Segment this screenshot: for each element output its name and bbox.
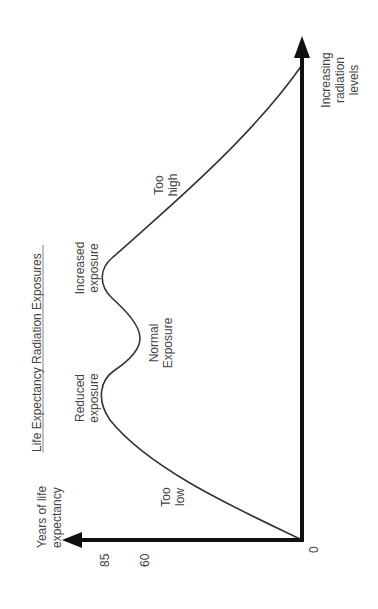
annotation-increased-exposure: Increased exposure [73,242,101,295]
x-axis-label: Increasing radiation levels [319,52,361,107]
svg-text:levels: levels [347,65,361,96]
svg-text:Reduced: Reduced [73,374,87,422]
svg-text:Years of life: Years of life [35,485,49,548]
chart-title: Life Expectancy Radiation Exposures [30,253,44,452]
svg-text:exposure: exposure [87,243,101,293]
origin-label: 0 [307,546,321,553]
svg-text:Increased: Increased [73,242,87,295]
svg-text:exposure: exposure [87,373,101,423]
svg-text:expectancy: expectancy [50,487,64,548]
y-axis-arrow-icon [62,532,82,548]
svg-text:Too: Too [152,175,166,195]
svg-text:Exposure: Exposure [161,317,175,368]
svg-text:Normal: Normal [147,324,161,363]
svg-text:radiation: radiation [333,57,347,103]
y-tick-85: 85 [98,553,112,567]
annotation-too-high: Too high [152,174,180,197]
chart-canvas: Life Expectancy Radiation Exposures Year… [0,0,378,609]
svg-text:low: low [173,488,187,506]
annotation-too-low: Too low [159,487,187,507]
svg-text:Increasing: Increasing [319,52,333,107]
x-axis-arrow-icon [294,36,310,58]
annotation-reduced-exposure: Reduced exposure [73,373,101,423]
y-axis-label: Years of life expectancy [35,485,64,548]
y-tick-60: 60 [138,553,152,567]
svg-text:Too: Too [159,487,173,507]
annotation-normal-exposure: Normal Exposure [147,317,175,368]
life-expectancy-curve [101,65,302,540]
svg-text:high: high [166,174,180,197]
